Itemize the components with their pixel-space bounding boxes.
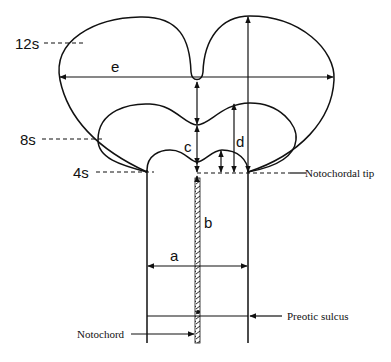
measure-label-e: e <box>111 58 119 75</box>
measure-label-c: c <box>184 138 192 155</box>
annotation-notochord: Notochord <box>77 328 125 340</box>
preotic-sulcus-dot <box>196 310 200 314</box>
measure-label-b: b <box>204 214 212 231</box>
annotation-notochordal-tip: Notochordal tip <box>305 167 375 179</box>
neural-plate-diagram: 12s 8s 4s e c d b a Notochordal tip Preo… <box>0 0 391 362</box>
stage-label-4s: 4s <box>73 164 89 181</box>
measure-label-d: d <box>236 133 244 150</box>
stage-label-12s: 12s <box>15 35 39 52</box>
measure-label-a: a <box>170 247 179 264</box>
stage-label-8s: 8s <box>20 131 36 148</box>
notochord-hatched <box>195 178 200 343</box>
annotation-preotic-sulcus: Preotic sulcus <box>287 310 348 322</box>
